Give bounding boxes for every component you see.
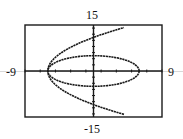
graph-plot-area bbox=[0, 0, 183, 139]
